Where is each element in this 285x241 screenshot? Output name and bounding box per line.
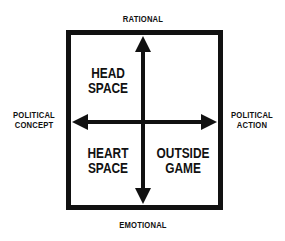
axis-label-top: RATIONAL <box>109 14 177 24</box>
quadrant-bottom-right-line1: OUTSIDE <box>155 146 211 161</box>
quadrant-bottom-left: HEART SPACE <box>83 146 134 176</box>
axis-label-left: POLITICAL CONCEPT <box>10 110 58 130</box>
quadrant-top-left: HEAD SPACE <box>83 66 134 96</box>
axis-label-right-line2: ACTION <box>227 120 278 130</box>
quadrant-bottom-left-line1: HEART <box>83 146 134 161</box>
axis-label-left-line2: CONCEPT <box>10 120 58 130</box>
quadrant-bottom-right: OUTSIDE GAME <box>155 146 211 176</box>
quadrant-top-left-line2: SPACE <box>83 81 134 96</box>
axis-label-bottom: EMOTIONAL <box>105 220 182 230</box>
axis-label-left-line1: POLITICAL <box>10 110 58 120</box>
quadrant-top-left-line1: HEAD <box>83 66 134 81</box>
quadrant-bottom-left-line2: SPACE <box>83 161 134 176</box>
quadrant-bottom-right-line2: GAME <box>155 161 211 176</box>
axis-label-right-line1: POLITICAL <box>227 110 278 120</box>
axis-label-right: POLITICAL ACTION <box>227 110 278 130</box>
